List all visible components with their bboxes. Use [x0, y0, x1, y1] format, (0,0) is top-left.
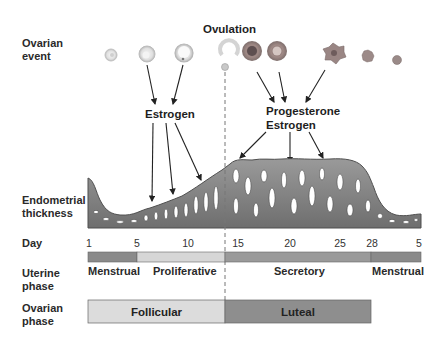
uterine-phase-secretory: Secretory: [274, 265, 325, 277]
progesterone-source-arrows: [257, 70, 325, 102]
estrogen-label: Estrogen: [145, 107, 195, 121]
uterine-phase-bar: [88, 252, 421, 262]
day-tick-5-next: 5: [416, 237, 422, 249]
day-tick-28: 28: [366, 237, 378, 249]
estrogen-source-arrows: [147, 65, 183, 104]
follicle-primary-icon: [105, 49, 117, 61]
corpus-luteum-regressing-icon: [323, 43, 346, 64]
day-tick-15: 15: [232, 237, 244, 249]
ovulation-label: Ovulation: [203, 22, 256, 36]
follicle-secondary-icon: [139, 46, 155, 62]
ovarian-phase-luteal: Luteal: [225, 300, 371, 323]
uterine-phase-proliferative: Proliferative: [153, 265, 217, 277]
corpus-albicans-icon: [393, 56, 402, 65]
uterine-phase-menstrual-next: Menstrual: [372, 265, 424, 277]
day-tick-1: 1: [86, 237, 92, 249]
corpus-albicans-small-icon: [362, 50, 374, 62]
day-tick-5: 5: [134, 237, 140, 249]
ruptured-follicle-icon: [220, 40, 238, 70]
uterine-phase-menstrual: Menstrual: [88, 265, 140, 277]
corpus-luteum-early-icon: [242, 41, 262, 61]
endometrium-thickness-graphic: [88, 159, 421, 228]
day-tick-20: 20: [284, 237, 296, 249]
menstrual-cycle-diagram: [0, 0, 441, 344]
corpus-luteum-mature-icon: [267, 41, 287, 61]
day-tick-25: 25: [334, 237, 346, 249]
progesterone-effect-arrows: [240, 132, 323, 162]
progesterone-estrogen-label: Progesterone Estrogen: [266, 104, 340, 132]
ovarian-phase-follicular: Follicular: [88, 300, 225, 323]
follicle-vesicular-icon: [175, 44, 193, 62]
day-tick-10: 10: [182, 237, 194, 249]
